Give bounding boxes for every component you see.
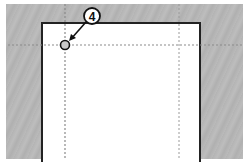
guides-overlay: 4 xyxy=(0,0,246,162)
guide-intersection-marker[interactable] xyxy=(61,41,70,50)
diagram-canvas: 4 xyxy=(0,0,246,162)
callout-number: 4 xyxy=(89,10,96,24)
